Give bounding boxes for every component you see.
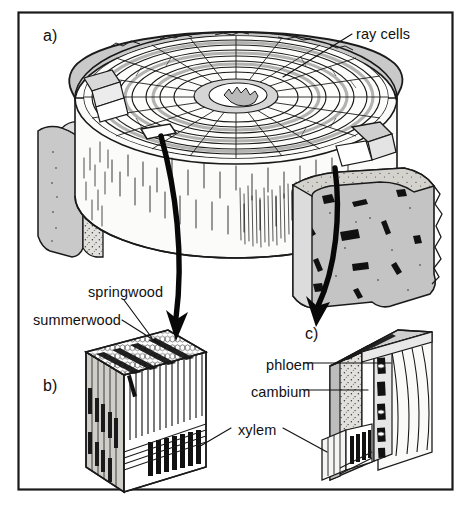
figure-illustration	[0, 0, 473, 507]
figure-root: a) b) c) ray cells springwood summerwood…	[0, 0, 473, 507]
growth-rings-and-rays	[84, 36, 388, 158]
panel-letter-a: a)	[43, 28, 57, 44]
panel-letter-b: b)	[43, 378, 57, 394]
panel-letter-c: c)	[305, 326, 319, 342]
panel-b-block-illustration	[86, 330, 206, 492]
label-springwood: springwood	[88, 285, 163, 300]
right-bark-flap	[293, 168, 442, 308]
label-cambium: cambium	[251, 385, 311, 400]
label-summerwood: summerwood	[33, 313, 121, 328]
label-xylem: xylem	[238, 423, 276, 438]
label-phloem: phloem	[266, 358, 314, 373]
label-ray-cells: ray cells	[356, 27, 410, 42]
